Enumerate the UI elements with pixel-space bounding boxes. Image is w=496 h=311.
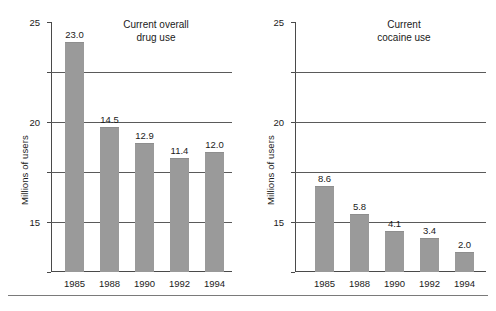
bar [315, 186, 334, 272]
bar [385, 231, 404, 272]
bar [455, 252, 474, 272]
bar-value-label: 3.4 [412, 225, 447, 236]
y-tick-mark: 0 [47, 272, 51, 273]
bar [350, 214, 369, 272]
y-tick-mark: 0 [291, 272, 295, 273]
x-tick-label: 1994 [446, 278, 483, 289]
bar-value-label: 2.0 [447, 239, 482, 250]
bar-value-label: 12.9 [127, 130, 162, 141]
y-tick-label: 20 [273, 117, 284, 128]
bar-value-label: 5.8 [342, 201, 377, 212]
x-tick-label: 1985 [56, 278, 93, 289]
chart-panel-drug-use: Millions of users Current overall drug u… [0, 0, 248, 300]
bar [205, 152, 224, 272]
y-tick-label: 25 [273, 17, 284, 28]
bar-value-label: 12.0 [197, 139, 232, 150]
bar [420, 238, 439, 272]
plot-area: 0510152025 8.619855.819884.119903.419922… [295, 22, 486, 272]
x-tick-label: 1992 [161, 278, 198, 289]
bar [100, 127, 119, 272]
bar-value-label: 4.1 [377, 218, 412, 229]
chart-panel-cocaine-use: Millions of users Current cocaine use 05… [248, 0, 496, 300]
plot-area: 0510152025 23.0198514.5198812.9199011.41… [51, 22, 232, 272]
x-tick-label: 1992 [411, 278, 448, 289]
y-axis-title: Millions of users [265, 85, 276, 205]
y-tick-label: 25 [29, 17, 40, 28]
bar-value-label: 23.0 [57, 29, 92, 40]
bar-series: 23.0198514.5198812.9199011.4199212.01994 [51, 22, 232, 272]
x-tick-label: 1994 [196, 278, 233, 289]
bar-value-label: 11.4 [162, 145, 197, 156]
footer-divider [8, 295, 488, 296]
bar-value-label: 8.6 [307, 173, 342, 184]
x-tick-label: 1985 [306, 278, 343, 289]
figure: Millions of users Current overall drug u… [0, 0, 496, 311]
y-axis-title: Millions of users [19, 85, 30, 205]
y-tick-label: 15 [273, 217, 284, 228]
y-tick-label: 15 [29, 217, 40, 228]
bar [170, 158, 189, 272]
x-tick-label: 1988 [91, 278, 128, 289]
bar [65, 42, 84, 272]
bar-value-label: 14.5 [92, 114, 127, 125]
y-tick-label: 20 [29, 117, 40, 128]
x-tick-label: 1988 [341, 278, 378, 289]
x-tick-label: 1990 [126, 278, 163, 289]
bar-series: 8.619855.819884.119903.419922.01994 [295, 22, 486, 272]
x-tick-label: 1990 [376, 278, 413, 289]
bar [135, 143, 154, 272]
